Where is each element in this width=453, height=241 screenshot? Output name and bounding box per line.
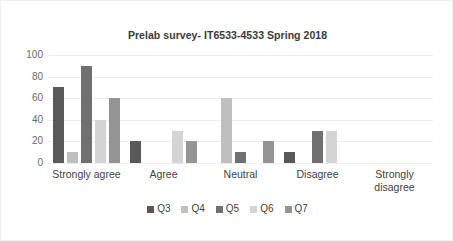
x-axis-category-label: Strongly agree [48, 168, 125, 181]
bar[interactable] [312, 131, 323, 163]
bar[interactable] [67, 152, 78, 163]
legend-item-q4[interactable]: Q4 [181, 204, 204, 214]
bar[interactable] [235, 152, 246, 163]
bar-slot [375, 55, 386, 163]
y-axis-tick-label: 80 [13, 72, 43, 82]
x-axis-category-label: Agree [125, 168, 202, 181]
bar[interactable] [263, 141, 274, 163]
legend-swatch-icon [250, 206, 257, 213]
bar-group [279, 55, 356, 163]
legend-label: Q7 [295, 204, 308, 214]
bar[interactable] [221, 98, 232, 163]
bar-slot [207, 55, 218, 163]
legend-item-q3[interactable]: Q3 [147, 204, 170, 214]
bar-slot [172, 55, 183, 163]
bar-slot [417, 55, 428, 163]
legend-swatch-icon [147, 206, 154, 213]
x-axis-labels: Strongly agreeAgreeNeutralDisagreeStrong… [48, 168, 433, 204]
bar-slot [312, 55, 323, 163]
bar-slot [326, 55, 337, 163]
bar-group [125, 55, 202, 163]
bar-slot [284, 55, 295, 163]
bar-slot [340, 55, 351, 163]
y-axis-tick-label: 20 [13, 136, 43, 146]
bar-group [48, 55, 125, 163]
legend-swatch-icon [216, 206, 223, 213]
bar[interactable] [53, 87, 64, 163]
bar-slot [235, 55, 246, 163]
bar[interactable] [130, 141, 141, 163]
bar-slot [144, 55, 155, 163]
legend-item-q6[interactable]: Q6 [250, 204, 273, 214]
gridline [48, 163, 433, 164]
chart-container: Prelab survey- IT6533-4533 Spring 2018 0… [0, 0, 453, 241]
y-axis-tick-label: 100 [13, 50, 43, 60]
bar-slot [263, 55, 274, 163]
y-axis-tick-label: 60 [13, 93, 43, 103]
bar[interactable] [186, 141, 197, 163]
legend-label: Q6 [260, 204, 273, 214]
plot-area [48, 55, 433, 163]
bar-slot [81, 55, 92, 163]
bar-slot [158, 55, 169, 163]
bar-group [356, 55, 433, 163]
bar[interactable] [95, 120, 106, 163]
bar[interactable] [109, 98, 120, 163]
bar-slot [403, 55, 414, 163]
bar-slot [361, 55, 372, 163]
legend-label: Q5 [226, 204, 239, 214]
legend-swatch-icon [181, 206, 188, 213]
legend-label: Q3 [157, 204, 170, 214]
bar-slot [298, 55, 309, 163]
bar-slot [389, 55, 400, 163]
bar-slot [67, 55, 78, 163]
legend-item-q5[interactable]: Q5 [216, 204, 239, 214]
bar-group [202, 55, 279, 163]
bar[interactable] [81, 66, 92, 163]
bar-slot [186, 55, 197, 163]
legend-swatch-icon [285, 206, 292, 213]
bar-slot [109, 55, 120, 163]
bar-slot [130, 55, 141, 163]
y-axis: 020406080100 [10, 55, 43, 163]
bar-slot [221, 55, 232, 163]
x-axis-category-label: Neutral [202, 168, 279, 181]
bar[interactable] [326, 131, 337, 163]
y-axis-tick-label: 0 [13, 158, 43, 168]
bar-slot [95, 55, 106, 163]
legend-item-q7[interactable]: Q7 [285, 204, 308, 214]
chart-legend: Q3Q4Q5Q6Q7 [1, 204, 453, 214]
bar-slot [249, 55, 260, 163]
x-axis-category-label: Disagree [279, 168, 356, 181]
y-axis-tick-label: 40 [13, 115, 43, 125]
x-axis-category-label: Strongly disagree [356, 168, 433, 194]
bar[interactable] [284, 152, 295, 163]
chart-title: Prelab survey- IT6533-4533 Spring 2018 [1, 29, 453, 41]
bar[interactable] [172, 131, 183, 163]
bar-slot [53, 55, 64, 163]
legend-label: Q4 [191, 204, 204, 214]
